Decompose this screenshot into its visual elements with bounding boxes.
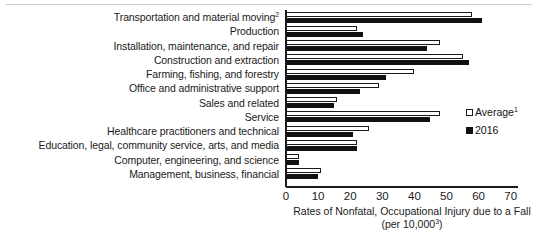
category-label: Management, business, financial — [129, 169, 279, 180]
category-label: Farming, fishing, and forestry — [146, 69, 279, 80]
bar-group — [286, 154, 522, 168]
fall-injury-rates-bar-chart: Transportation and material moving2Produ… — [0, 0, 538, 245]
bar-average — [286, 83, 379, 88]
bar-average — [286, 40, 440, 45]
x-axis-tick-label: 10 — [312, 189, 325, 203]
bar-group — [286, 26, 522, 40]
bar-average — [286, 168, 321, 173]
legend-item-label: Average1 — [475, 106, 518, 118]
bar-average — [286, 26, 357, 31]
bar-2016 — [286, 60, 469, 65]
bar-average — [286, 54, 463, 59]
plot-area — [286, 11, 522, 182]
category-label: Service — [245, 112, 279, 123]
x-axis-title-line-2: (per 10,0003) — [286, 218, 538, 231]
legend-swatch-solid-icon — [466, 127, 473, 134]
legend-item[interactable]: 2016 — [466, 124, 536, 136]
category-label: Office and administrative support — [129, 83, 279, 94]
category-footnote-marker: 2 — [275, 11, 279, 18]
bar-2016 — [286, 18, 482, 23]
bar-average — [286, 111, 440, 116]
bar-average — [286, 69, 414, 74]
bar-2016 — [286, 160, 299, 165]
legend-item-label: 2016 — [475, 124, 498, 136]
legend-footnote-marker: 1 — [514, 106, 518, 113]
bar-group — [286, 83, 522, 97]
bar-2016 — [286, 32, 363, 37]
category-label: Construction and extraction — [154, 55, 279, 66]
chart-legend: Average12016 — [466, 106, 536, 142]
x-axis-tick-label: 30 — [376, 189, 389, 203]
bar-average — [286, 97, 337, 102]
bar-2016 — [286, 46, 427, 51]
bar-average — [286, 126, 369, 131]
legend-swatch-hollow-icon — [466, 109, 473, 116]
y-axis-line — [285, 10, 287, 187]
x-axis-tick-label: 70 — [504, 189, 517, 203]
bar-average — [286, 140, 357, 145]
bar-2016 — [286, 132, 353, 137]
x-axis-tick-label: 40 — [408, 189, 421, 203]
category-label: Computer, engineering, and science — [114, 155, 279, 166]
x-axis-line — [286, 186, 518, 188]
x-axis-tick-label: 50 — [440, 189, 453, 203]
bar-group — [286, 168, 522, 182]
legend-item[interactable]: Average1 — [466, 106, 536, 118]
bar-2016 — [286, 89, 360, 94]
x-axis-tick-label: 20 — [344, 189, 357, 203]
bar-average — [286, 12, 472, 17]
bar-group — [286, 12, 522, 26]
x-axis-tick-labels: 010203040506070 — [286, 189, 526, 205]
category-label: Healthcare practitioners and technical — [107, 126, 279, 137]
x-axis-tick-label: 60 — [472, 189, 485, 203]
bar-2016 — [286, 174, 318, 179]
x-axis-title-line-2-suffix: ) — [439, 218, 443, 230]
category-label: Installation, maintenance, and repair — [113, 41, 279, 52]
bar-2016 — [286, 103, 334, 108]
bar-group — [286, 40, 522, 54]
category-axis-labels: Transportation and material moving2Produ… — [0, 11, 283, 182]
bar-2016 — [286, 117, 430, 122]
bar-group — [286, 54, 522, 68]
x-axis-tick-label: 0 — [283, 189, 289, 203]
top-divider-rule — [6, 4, 532, 5]
category-label: Education, legal, community service, art… — [39, 140, 280, 151]
bar-2016 — [286, 146, 357, 151]
x-axis-title-line-1: Rates of Nonfatal, Occupational Injury d… — [286, 205, 538, 218]
category-label: Sales and related — [199, 98, 279, 109]
category-label: Production — [230, 26, 279, 37]
category-label: Transportation and material moving2 — [114, 12, 279, 23]
bar-average — [286, 154, 299, 159]
bar-group — [286, 69, 522, 83]
x-axis-title-line-2-prefix: (per 10,000 — [381, 218, 435, 230]
x-axis-title: Rates of Nonfatal, Occupational Injury d… — [286, 205, 538, 231]
bar-2016 — [286, 75, 386, 80]
